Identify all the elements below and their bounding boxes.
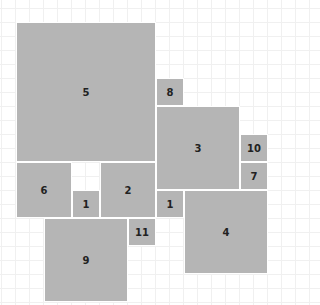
square-label: 11 — [135, 227, 149, 238]
square-label: 5 — [83, 87, 90, 98]
square-10: 10 — [240, 134, 268, 162]
square-label: 10 — [247, 143, 261, 154]
square-6: 6 — [16, 162, 72, 218]
square-label: 4 — [223, 227, 230, 238]
square-9: 9 — [44, 218, 128, 302]
square-label: 3 — [195, 143, 202, 154]
square-label: 8 — [167, 87, 174, 98]
square-label: 6 — [41, 185, 48, 196]
square-3: 3 — [156, 106, 240, 190]
square-5: 5 — [16, 22, 156, 162]
square-11: 11 — [128, 218, 156, 246]
square-1: 1 — [72, 190, 100, 218]
square-label: 1 — [167, 199, 174, 210]
square-label: 9 — [83, 255, 90, 266]
square-label: 7 — [251, 171, 258, 182]
square-1: 1 — [156, 190, 184, 218]
square-8: 8 — [156, 78, 184, 106]
square-2: 2 — [100, 162, 156, 218]
square-4: 4 — [184, 190, 268, 274]
square-label: 2 — [125, 185, 132, 196]
square-label: 1 — [83, 199, 90, 210]
square-7: 7 — [240, 162, 268, 190]
